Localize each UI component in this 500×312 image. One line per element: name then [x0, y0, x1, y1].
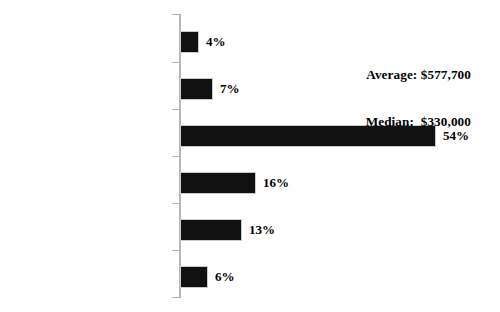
bar-value-label: 7% — [220, 78, 240, 100]
annotation-median: Median: $330,000 — [300, 114, 471, 130]
axis-tick — [172, 14, 180, 15]
axis-tick — [172, 297, 180, 298]
bar-value-label: 16% — [263, 172, 289, 194]
bar — [180, 78, 213, 100]
bar-value-label: 6% — [215, 266, 235, 288]
statistics-annotation: Average: $577,700 Median: $330,000 — [300, 36, 471, 160]
axis-tick — [172, 156, 180, 157]
bar — [180, 266, 208, 288]
axis-tick — [172, 250, 180, 251]
axis-tick — [172, 62, 180, 63]
annotation-average: Average: $577,700 — [300, 67, 471, 83]
bar — [180, 219, 242, 241]
bar — [180, 172, 256, 194]
bar-chart: Less than $50,000 4% $50,000–$99,999 7% … — [0, 0, 500, 312]
axis-tick — [172, 109, 180, 110]
bar — [180, 31, 199, 53]
bar-value-label: 4% — [206, 31, 226, 53]
bar-value-label: 13% — [249, 219, 275, 241]
axis-tick — [172, 203, 180, 204]
